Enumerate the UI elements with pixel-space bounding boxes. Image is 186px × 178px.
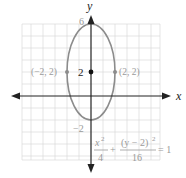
label-point-left: (−2, 2) [31,67,57,78]
eq-rhs: = 1 [158,144,171,155]
y-axis: y [86,0,95,173]
eq-num2: (y − 2) [121,137,148,149]
eq-num1: x [94,137,100,148]
point-left-vertex [65,70,69,74]
eq-num2-exp: 2 [152,135,156,143]
ellipse-graph: x y 6 2 −2 (−2, 2) (2, 2) x 2 4 + (y − 2… [0,0,186,178]
eq-den1: 4 [98,152,103,163]
y-tick-2: 2 [78,66,84,78]
y-tick-neg2: −2 [73,123,84,134]
center-point [89,70,94,75]
x-axis-left-arrow-icon [11,93,20,100]
y-tick-6: 6 [79,16,84,27]
x-axis-label: x [175,89,182,103]
x-axis-right-arrow-icon [162,93,171,100]
y-axis-label: y [86,0,93,13]
equation-annotation: x 2 4 + (y − 2) 2 16 = 1 [94,135,171,163]
eq-plus: + [110,144,116,155]
point-right-vertex [113,70,117,74]
label-point-right: (2, 2) [119,67,140,78]
eq-num1-exp: 2 [101,135,105,143]
y-axis-up-arrow-icon [88,15,95,24]
y-axis-down-arrow-icon [88,164,95,173]
eq-den2: 16 [132,152,142,163]
x-axis: x [11,89,182,103]
